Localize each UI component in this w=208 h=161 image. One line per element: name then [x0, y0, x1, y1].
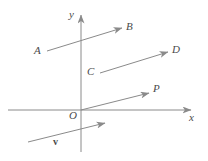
vector-CD-arrow [100, 52, 168, 73]
x-axis-label: x [189, 112, 194, 123]
point-label-b: B [126, 21, 133, 32]
point-label-a: A [34, 45, 41, 56]
vector-v-arrow [28, 123, 105, 142]
vector-diagram: x y O A B C D P v [0, 0, 208, 161]
axes-group [8, 15, 191, 152]
vector-AB-arrow [47, 28, 122, 51]
origin-label: O [69, 110, 77, 121]
point-label-c: C [87, 66, 94, 77]
diagram-canvas [0, 0, 208, 161]
point-label-p: P [153, 83, 160, 94]
point-label-d: D [172, 44, 180, 55]
vector-label-v: v [53, 137, 58, 147]
vector-OP-arrow [81, 93, 149, 110]
y-axis-label: y [69, 9, 74, 20]
vectors-group [28, 28, 168, 142]
